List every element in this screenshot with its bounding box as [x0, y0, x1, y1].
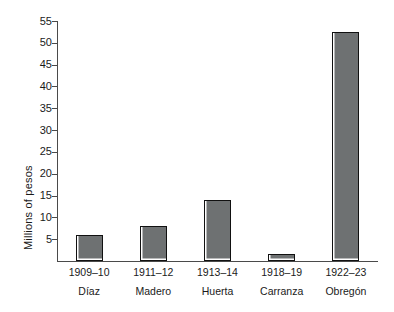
- x-axis-category-leader: Huerta: [181, 284, 253, 298]
- bar-chart: Millions of pesos 510152025303540455055 …: [0, 0, 394, 312]
- x-axis-category-leader: Obregón: [310, 284, 382, 298]
- y-axis-tick-label: 40: [30, 81, 52, 92]
- x-axis-category: 1909–10Díaz: [53, 265, 125, 298]
- y-axis-tick-label: 35: [30, 103, 52, 114]
- x-axis-category-years: 1911–12: [117, 265, 189, 279]
- x-axis-category: 1922–23Obregón: [310, 265, 382, 298]
- x-axis-category-years: 1918–19: [246, 265, 318, 279]
- y-axis-tick-label: 10: [30, 212, 52, 223]
- x-axis-category: 1911–12Madero: [117, 265, 189, 298]
- y-axis-tick-label: 25: [30, 146, 52, 157]
- x-axis-category-years: 1922–23: [310, 265, 382, 279]
- bar: [204, 200, 231, 261]
- bar: [140, 226, 167, 261]
- x-axis-category-years: 1909–10: [53, 265, 125, 279]
- bar: [268, 254, 295, 261]
- x-axis-category: 1918–19Carranza: [246, 265, 318, 298]
- bar: [332, 32, 359, 261]
- x-axis-category-leader: Díaz: [53, 284, 125, 298]
- plot-area: [57, 21, 378, 261]
- x-axis-category-labels: 1909–10Díaz1911–12Madero1913–14Huerta191…: [57, 265, 378, 311]
- y-axis-tick-label: 15: [30, 190, 52, 201]
- y-axis-tick-label: 20: [30, 168, 52, 179]
- y-axis-tick-label: 5: [30, 234, 52, 245]
- x-axis-line: [57, 261, 378, 262]
- x-axis-category-years: 1913–14: [181, 265, 253, 279]
- x-axis-category-leader: Carranza: [246, 284, 318, 298]
- x-axis-category: 1913–14Huerta: [181, 265, 253, 298]
- y-axis-tick-label: 50: [30, 37, 52, 48]
- bar: [76, 235, 103, 261]
- x-axis-category-leader: Madero: [117, 284, 189, 298]
- y-axis-tick-label: 30: [30, 125, 52, 136]
- y-axis-tick-label: 55: [30, 16, 52, 27]
- y-axis-tick-labels: 510152025303540455055: [28, 0, 52, 312]
- y-axis-tick-label: 45: [30, 59, 52, 70]
